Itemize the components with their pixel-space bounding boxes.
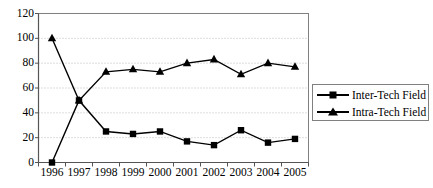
y-axis-tick-label: 80 <box>8 57 34 69</box>
data-point-marker <box>265 139 271 145</box>
line-chart: 020406080100120 199619971998199920002001… <box>0 0 433 188</box>
legend-item-inter-tech-field: Inter-Tech Field <box>313 86 428 104</box>
legend-item-intra-tech-field: Intra-Tech Field <box>313 103 428 121</box>
y-axis-tick-label: 100 <box>8 32 34 44</box>
data-point-marker <box>129 65 137 73</box>
data-point-marker <box>130 131 136 137</box>
data-point-marker <box>49 159 55 165</box>
data-point-marker <box>184 138 190 144</box>
data-point-marker <box>292 136 298 142</box>
legend-label-inter-tech-field: Inter-Tech Field <box>352 89 426 101</box>
y-axis-tick-label: 120 <box>8 8 34 20</box>
y-axis-tick-label: 40 <box>8 107 34 119</box>
series-line-0 <box>52 100 295 162</box>
legend-sample-triangle <box>316 105 350 119</box>
legend-sample-square <box>316 88 350 102</box>
data-point-marker <box>48 34 56 42</box>
data-point-marker <box>264 59 272 67</box>
series-line-1 <box>52 38 295 100</box>
data-point-marker <box>211 142 217 148</box>
x-axis-tick-label: 2005 <box>275 166 315 179</box>
data-point-marker <box>210 55 218 63</box>
data-point-marker <box>103 128 109 134</box>
triangle-marker-icon <box>328 108 338 116</box>
y-axis-tick-label: 20 <box>8 132 34 144</box>
square-marker-icon <box>330 92 337 99</box>
legend-label-intra-tech-field: Intra-Tech Field <box>352 106 426 118</box>
data-point-marker <box>157 128 163 134</box>
data-point-marker <box>238 127 244 133</box>
y-axis-tick-label: 60 <box>8 82 34 94</box>
chart-legend: Inter-Tech Field Intra-Tech Field <box>312 84 429 121</box>
y-axis-tick-label: 0 <box>8 157 34 169</box>
